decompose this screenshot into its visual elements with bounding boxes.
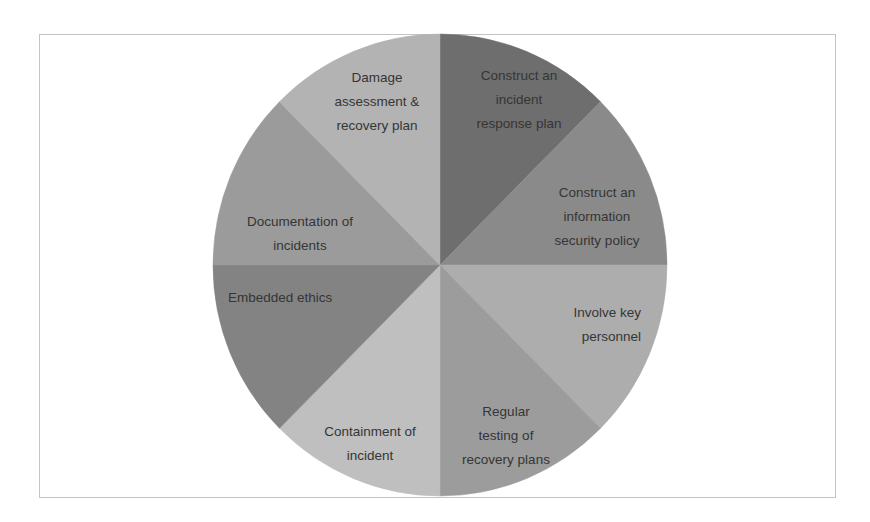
slice-label-line: personnel bbox=[582, 329, 641, 344]
slice-label-line: incidents bbox=[273, 238, 327, 253]
slice-label: Embedded ethics bbox=[228, 290, 333, 305]
slice-label-line: recovery plan bbox=[336, 118, 417, 133]
slice-label: Construct aninformationsecurity policy bbox=[555, 185, 640, 248]
slice-label-line: Regular bbox=[482, 404, 530, 419]
pie-chart: Construct anincidentresponse planConstru… bbox=[0, 0, 870, 522]
slice-label-line: Damage bbox=[351, 70, 402, 85]
slice-label-line: Embedded ethics bbox=[228, 290, 333, 305]
pie-slices bbox=[213, 34, 667, 496]
slice-label-line: response plan bbox=[477, 116, 562, 131]
slice-label-line: testing of bbox=[479, 428, 534, 443]
slice-label-line: recovery plans bbox=[462, 452, 550, 467]
slice-label-line: Construct an bbox=[559, 185, 636, 200]
slice-label-line: Documentation of bbox=[247, 214, 353, 229]
slice-label-line: information bbox=[564, 209, 631, 224]
slice-label-line: incident bbox=[347, 448, 394, 463]
slice-label-line: Construct an bbox=[481, 68, 558, 83]
slice-label-line: security policy bbox=[555, 233, 640, 248]
slice-label-line: Involve key bbox=[573, 305, 641, 320]
slice-label-line: assessment & bbox=[335, 94, 420, 109]
slice-label-line: incident bbox=[496, 92, 543, 107]
slice-label-line: Containment of bbox=[324, 424, 416, 439]
